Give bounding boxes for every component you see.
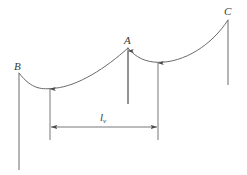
catenary-diagram-svg [0,0,247,175]
figure-canvas: B A C lv [0,0,247,175]
catenary-span-BA [19,48,128,89]
label-support-B: B [14,61,21,72]
label-support-C: C [224,6,231,17]
catenary-span-AC [128,20,228,62]
label-span-length: lv [100,112,106,125]
span-subscript: v [103,117,106,125]
label-support-A: A [124,35,131,46]
